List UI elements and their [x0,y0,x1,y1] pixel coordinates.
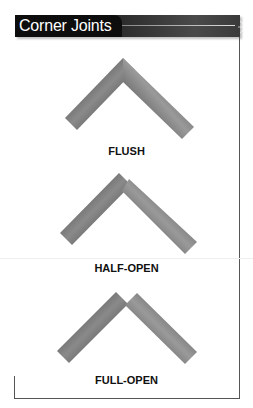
full-open-joint-diagram [57,292,197,364]
label-half-open: HALF-OPEN [0,262,253,274]
half-open-joint-diagram [60,173,197,254]
joint-diagrams [0,0,253,408]
flush-joint-diagram [65,58,194,139]
label-flush: FLUSH [0,145,253,157]
label-full-open: FULL-OPEN [0,374,253,386]
